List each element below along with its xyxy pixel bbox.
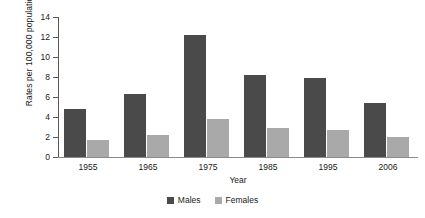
bar-group bbox=[178, 17, 238, 157]
x-tick-label-1985: 1985 bbox=[238, 162, 298, 172]
y-tick-label: 2 bbox=[24, 132, 50, 142]
x-tick-label-1965: 1965 bbox=[118, 162, 178, 172]
x-axis-line bbox=[58, 157, 418, 158]
x-tick-label-2006: 2006 bbox=[358, 162, 418, 172]
bar-males-1985 bbox=[244, 75, 266, 157]
y-tick-label: 0 bbox=[24, 152, 50, 162]
bar-males-1965 bbox=[124, 94, 146, 157]
bar-females-1985 bbox=[267, 128, 289, 158]
bar-males-1975 bbox=[184, 35, 206, 157]
x-tick-label-1995: 1995 bbox=[298, 162, 358, 172]
bar-females-1995 bbox=[327, 130, 349, 158]
bar-males-2006 bbox=[364, 103, 386, 157]
x-tick-label-1955: 1955 bbox=[58, 162, 118, 172]
legend-swatch-icon bbox=[215, 197, 222, 204]
bar-females-1965 bbox=[147, 135, 169, 157]
chart-legend: MalesFemales bbox=[0, 195, 425, 205]
legend-item-males[interactable]: Males bbox=[167, 195, 201, 205]
bar-group bbox=[238, 17, 298, 157]
legend-item-females[interactable]: Females bbox=[215, 195, 259, 205]
bar-females-2006 bbox=[387, 137, 409, 157]
y-tick-label: 14 bbox=[24, 12, 50, 22]
bar-group bbox=[118, 17, 178, 157]
bar-group bbox=[298, 17, 358, 157]
bar-group bbox=[58, 17, 118, 157]
bar-females-1975 bbox=[207, 119, 229, 158]
bar-males-1955 bbox=[64, 109, 86, 157]
bar-group bbox=[358, 17, 418, 157]
x-axis-title: Year bbox=[58, 175, 418, 185]
y-tick-label: 12 bbox=[24, 32, 50, 42]
y-tick-label: 4 bbox=[24, 112, 50, 122]
bar-females-1955 bbox=[87, 140, 109, 158]
plot-area bbox=[58, 17, 418, 157]
bar-chart: Rates per 100,000 population 02468101214… bbox=[0, 0, 425, 218]
legend-swatch-icon bbox=[167, 197, 174, 204]
x-tick-label-1975: 1975 bbox=[178, 162, 238, 172]
y-tick-label: 10 bbox=[24, 52, 50, 62]
legend-label: Females bbox=[226, 195, 259, 205]
legend-label: Males bbox=[178, 195, 201, 205]
y-tick-label: 6 bbox=[24, 92, 50, 102]
y-tick-label: 8 bbox=[24, 72, 50, 82]
y-tick-mark bbox=[53, 157, 58, 158]
bar-males-1995 bbox=[304, 78, 326, 157]
